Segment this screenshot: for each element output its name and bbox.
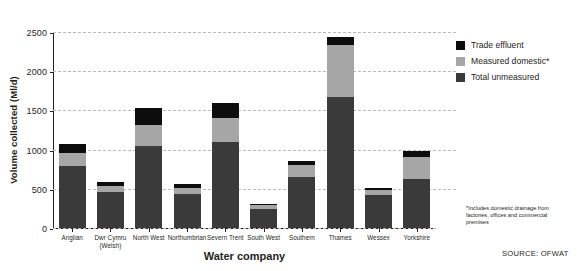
bar-segment bbox=[135, 146, 162, 228]
x-tick-label: Wessex bbox=[367, 234, 390, 242]
bar-segment bbox=[135, 125, 162, 145]
x-axis-title: Water company bbox=[53, 250, 436, 262]
x-tick-mark bbox=[340, 228, 341, 232]
x-tick-label: Northumbrian bbox=[168, 234, 207, 242]
bar-segment bbox=[212, 142, 239, 228]
x-tick-mark bbox=[149, 228, 150, 232]
x-tick-label-line: Severn Trent bbox=[207, 234, 244, 242]
footnote-text: *Includes domestic drainage from factori… bbox=[466, 205, 570, 226]
bar-segment bbox=[403, 157, 430, 179]
x-tick-mark bbox=[264, 228, 265, 232]
bar-group[interactable]: Southern bbox=[288, 32, 315, 228]
bar-group[interactable]: Yorkshire bbox=[403, 32, 430, 228]
chart-figure: Volume collected (Ml/d) 0500100015002000… bbox=[0, 0, 578, 271]
bar-segment bbox=[365, 195, 392, 228]
bar-segment bbox=[250, 209, 277, 228]
y-tick-label: 2000 bbox=[27, 67, 47, 77]
legend-item-label: Measured domestic* bbox=[471, 56, 549, 66]
x-tick-label-line: Northumbrian bbox=[168, 234, 207, 242]
y-tick-label: 500 bbox=[32, 185, 47, 195]
x-tick-label: North West bbox=[133, 234, 165, 242]
bar-group[interactable]: Dwr Cymru(Welsh) bbox=[97, 32, 124, 228]
legend-swatch-icon bbox=[456, 41, 465, 50]
y-tick-label: 0 bbox=[42, 224, 47, 234]
bar-segment bbox=[174, 194, 201, 228]
x-tick-label-line: Dwr Cymru bbox=[94, 234, 126, 242]
bar-group[interactable]: Northumbrian bbox=[174, 32, 201, 228]
x-tick-mark bbox=[417, 228, 418, 232]
x-tick-mark bbox=[72, 228, 73, 232]
bar-segment bbox=[288, 177, 315, 228]
x-tick-label: Severn Trent bbox=[207, 234, 244, 242]
bar-group[interactable]: Severn Trent bbox=[212, 32, 239, 228]
x-tick-label-line: Southern bbox=[289, 234, 315, 242]
x-tick-mark bbox=[225, 228, 226, 232]
chart-legend: Trade effluentMeasured domestic*Total un… bbox=[456, 40, 574, 88]
bar-group[interactable]: Anglian bbox=[59, 32, 86, 228]
x-tick-label: South West bbox=[247, 234, 280, 242]
bar-segment bbox=[97, 192, 124, 228]
legend-item-label: Trade effluent bbox=[471, 40, 524, 50]
bar-segment bbox=[327, 97, 354, 228]
x-tick-label-line: Anglian bbox=[61, 234, 82, 242]
y-tick-mark bbox=[50, 229, 53, 230]
bar-segment bbox=[403, 179, 430, 228]
x-tick-label: Thames bbox=[329, 234, 352, 242]
y-tick-label: 1500 bbox=[27, 106, 47, 116]
bar-segment bbox=[135, 108, 162, 125]
bar-series-container: AnglianDwr Cymru(Welsh)North WestNorthum… bbox=[53, 32, 436, 228]
bar-group[interactable]: South West bbox=[250, 32, 277, 228]
source-credit: SOURCE: OFWAT bbox=[502, 249, 569, 258]
bar-segment bbox=[327, 37, 354, 46]
x-tick-mark bbox=[379, 228, 380, 232]
y-axis-title: Volume collected (Ml/d) bbox=[8, 32, 22, 228]
x-tick-label: Southern bbox=[289, 234, 315, 242]
x-tick-label: Anglian bbox=[61, 234, 82, 242]
bar-segment bbox=[59, 144, 86, 153]
x-tick-label-line: North West bbox=[133, 234, 165, 242]
legend-swatch-icon bbox=[456, 73, 465, 82]
legend-item[interactable]: Measured domestic* bbox=[456, 56, 574, 66]
bar-segment bbox=[288, 165, 315, 178]
legend-swatch-icon bbox=[456, 57, 465, 66]
bar-segment bbox=[212, 118, 239, 142]
x-tick-label: Dwr Cymru(Welsh) bbox=[94, 234, 126, 250]
bar-segment bbox=[212, 103, 239, 118]
bar-segment bbox=[327, 45, 354, 97]
x-tick-mark bbox=[302, 228, 303, 232]
legend-item-label: Total unmeasured bbox=[471, 72, 539, 82]
x-tick-mark bbox=[110, 228, 111, 232]
x-tick-label: Yorkshire bbox=[404, 234, 430, 242]
x-tick-label-line: Yorkshire bbox=[404, 234, 430, 242]
x-tick-label-line: Wessex bbox=[367, 234, 390, 242]
bar-group[interactable]: Wessex bbox=[365, 32, 392, 228]
bar-group[interactable]: North West bbox=[135, 32, 162, 228]
y-tick-label: 1000 bbox=[27, 146, 47, 156]
x-tick-mark bbox=[187, 228, 188, 232]
bar-segment bbox=[59, 166, 86, 228]
x-tick-label-line: South West bbox=[247, 234, 280, 242]
bar-group[interactable]: Thames bbox=[327, 32, 354, 228]
legend-item[interactable]: Total unmeasured bbox=[456, 72, 574, 82]
y-tick-label: 2500 bbox=[27, 28, 47, 38]
plot-area: 05001000150020002500 AnglianDwr Cymru(We… bbox=[53, 32, 436, 228]
legend-item[interactable]: Trade effluent bbox=[456, 40, 574, 50]
x-tick-label-line: Thames bbox=[329, 234, 352, 242]
bar-segment bbox=[59, 153, 86, 166]
x-tick-label-line: (Welsh) bbox=[94, 242, 126, 250]
